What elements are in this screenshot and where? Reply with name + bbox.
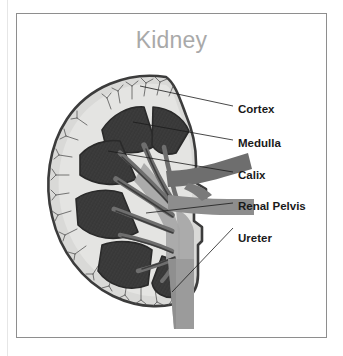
label-medulla: Medulla <box>238 138 281 150</box>
label-cortex: Cortex <box>238 104 274 116</box>
figure-canvas: Kidney <box>0 0 343 356</box>
ureter <box>168 259 194 329</box>
label-renal-pelvis: Renal Pelvis <box>238 201 306 213</box>
kidney-illustration <box>16 13 327 338</box>
label-calix: Calix <box>238 170 266 182</box>
label-ureter: Ureter <box>238 233 272 245</box>
